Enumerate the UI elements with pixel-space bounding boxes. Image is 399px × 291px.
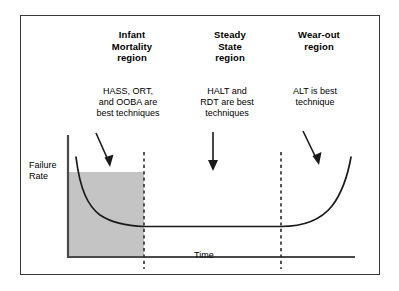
annotation-wear-out: ALT is best technique: [272, 86, 358, 108]
bathtub-curve-figure: Infant Mortality region Steady State reg…: [0, 0, 399, 291]
infant-mortality-shading: [68, 172, 144, 257]
region-heading-infant-mortality: Infant Mortality region: [84, 29, 180, 64]
annotation-infant-mortality: HASS, ORT, and OOBA are best techniques: [76, 86, 180, 119]
y-axis-label: Failure Rate: [29, 160, 73, 182]
x-axis-label: Time: [194, 250, 238, 261]
arrow-steady-state: [208, 132, 218, 171]
region-heading-steady-state: Steady State region: [188, 29, 272, 64]
region-heading-wear-out: Wear-out region: [272, 29, 366, 52]
annotation-steady-state: HALT and RDT are best techniques: [184, 86, 270, 119]
arrow-wear-out: [303, 131, 322, 165]
arrow-infant-mortality: [96, 133, 114, 167]
